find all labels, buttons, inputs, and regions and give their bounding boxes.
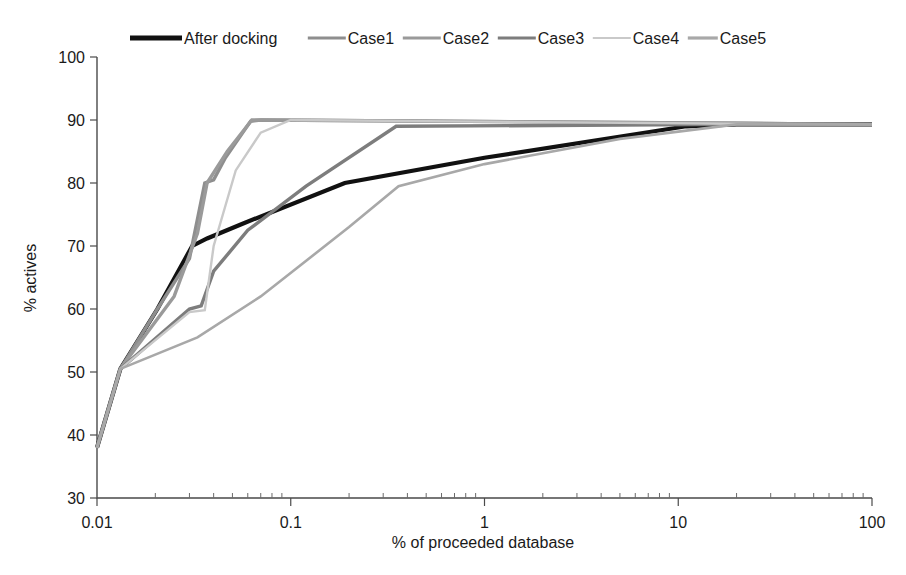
y-tick-label: 60 bbox=[67, 301, 85, 318]
series-line-case1 bbox=[97, 120, 872, 448]
chart-container: After dockingCase1Case2Case3Case4Case5 3… bbox=[0, 0, 906, 575]
x-tick-label: 10 bbox=[669, 514, 687, 531]
y-tick-label: 70 bbox=[67, 238, 85, 255]
y-tick-label: 100 bbox=[58, 49, 85, 66]
x-axis-title: % of proceeded database bbox=[392, 534, 574, 551]
legend-label-case5: Case5 bbox=[720, 30, 766, 47]
y-tick-label: 30 bbox=[67, 490, 85, 507]
y-tick-label: 90 bbox=[67, 112, 85, 129]
chart-legend: After dockingCase1Case2Case3Case4Case5 bbox=[130, 30, 766, 47]
legend-label-after-docking: After docking bbox=[184, 30, 277, 47]
chart-series-group bbox=[97, 120, 872, 448]
x-tick-label: 1 bbox=[480, 514, 489, 531]
legend-label-case1: Case1 bbox=[348, 30, 394, 47]
y-tick-label: 80 bbox=[67, 175, 85, 192]
legend-label-case3: Case3 bbox=[538, 30, 584, 47]
legend-label-case4: Case4 bbox=[633, 30, 679, 47]
enrichment-plot: After dockingCase1Case2Case3Case4Case5 3… bbox=[0, 0, 906, 575]
y-axis-title: % actives bbox=[22, 244, 39, 312]
x-tick-label: 0.1 bbox=[280, 514, 302, 531]
x-tick-label: 100 bbox=[859, 514, 886, 531]
x-tick-label: 0.01 bbox=[81, 514, 112, 531]
series-line-case4 bbox=[97, 120, 872, 448]
y-tick-label: 40 bbox=[67, 427, 85, 444]
series-line-case2 bbox=[97, 120, 872, 448]
legend-label-case2: Case2 bbox=[443, 30, 489, 47]
y-tick-label: 50 bbox=[67, 364, 85, 381]
